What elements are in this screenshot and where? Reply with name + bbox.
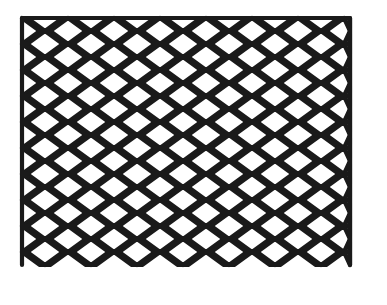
expanded-metal-mesh bbox=[0, 0, 387, 305]
